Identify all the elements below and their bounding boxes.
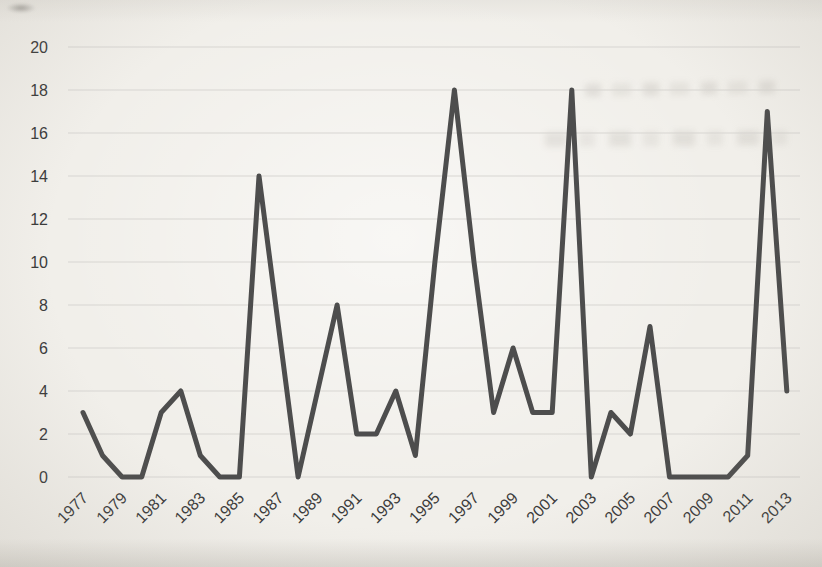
x-tick-label: 2005 (601, 489, 638, 526)
chart-svg: 0246810121416182019771979198119831985198… (0, 0, 822, 567)
y-tick-label: 18 (30, 82, 48, 99)
y-tick-label: 4 (39, 383, 48, 400)
x-tick-label: 1983 (171, 489, 208, 526)
x-tick-label: 1991 (328, 489, 365, 526)
y-tick-label: 6 (39, 340, 48, 357)
line-chart-figure: 0246810121416182019771979198119831985198… (0, 0, 822, 567)
y-tick-label: 20 (30, 39, 48, 56)
x-tick-label: 1997 (445, 489, 482, 526)
x-tick-label: 1977 (54, 489, 91, 526)
x-tick-label: 1985 (210, 489, 247, 526)
y-tick-label: 12 (30, 211, 48, 228)
x-tick-label: 1989 (289, 489, 326, 526)
x-tick-label: 1993 (367, 489, 404, 526)
data-series-line (83, 90, 787, 477)
x-tick-label: 2013 (758, 489, 795, 526)
x-tick-label: 1999 (484, 489, 521, 526)
scanned-page: 0246810121416182019771979198119831985198… (0, 0, 822, 567)
x-tick-label: 1987 (249, 489, 286, 526)
y-tick-label: 16 (30, 125, 48, 142)
y-tick-label: 14 (30, 168, 48, 185)
x-tick-label: 2009 (680, 489, 717, 526)
x-tick-label: 2007 (640, 489, 677, 526)
x-tick-label: 1979 (93, 489, 130, 526)
y-tick-label: 2 (39, 426, 48, 443)
y-tick-label: 8 (39, 297, 48, 314)
y-tick-label: 0 (39, 469, 48, 486)
x-tick-label: 1981 (132, 489, 169, 526)
x-tick-label: 2011 (719, 489, 755, 525)
x-tick-label: 2003 (562, 489, 599, 526)
y-tick-label: 10 (30, 254, 48, 271)
x-tick-label: 1995 (406, 489, 443, 526)
x-tick-label: 2001 (523, 489, 560, 526)
